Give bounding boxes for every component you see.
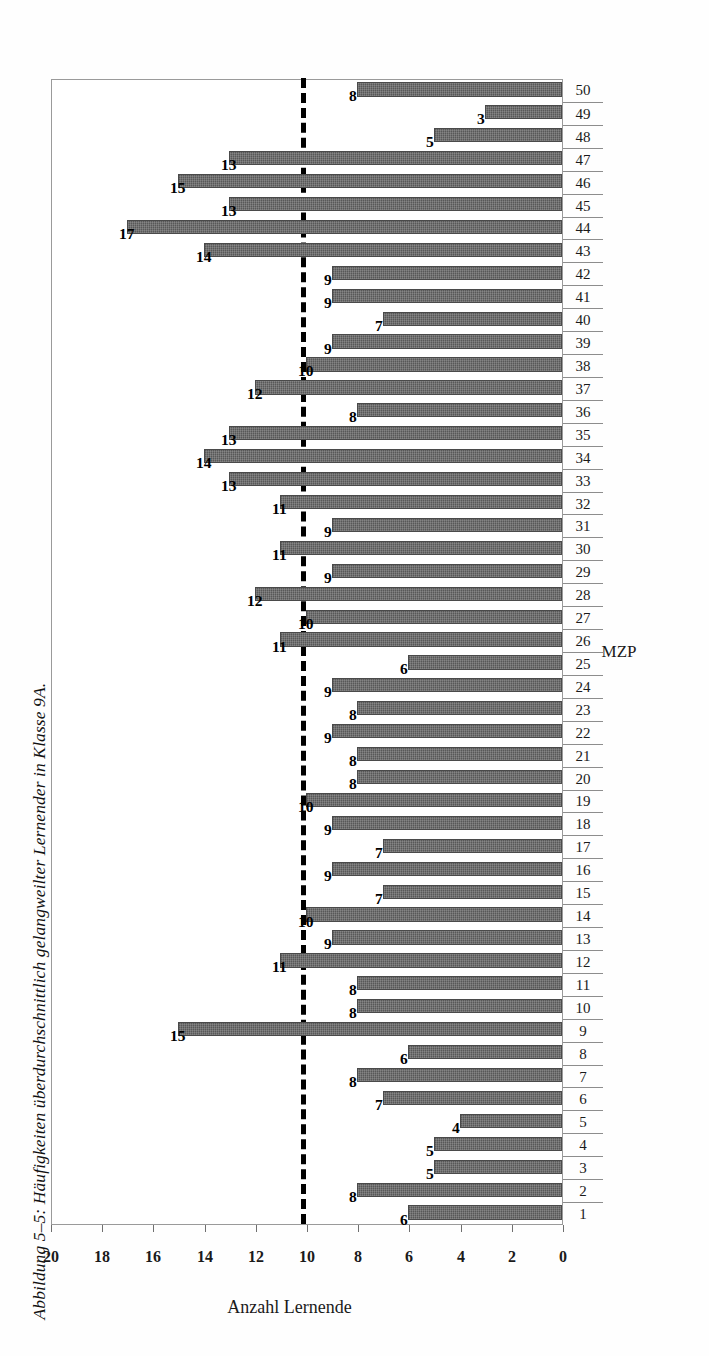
bar-value-label: 7 (374, 1096, 382, 1114)
bar (357, 1183, 562, 1197)
bar-value-label: 14 (195, 248, 211, 266)
x-axis-tick-label: 48 (575, 128, 590, 145)
y-axis-tick-label: 18 (88, 1248, 116, 1266)
bar-value-label: 7 (374, 844, 382, 862)
bar-value-label: 10 (298, 363, 314, 381)
y-axis-tick (358, 1225, 359, 1232)
x-axis-tick-cell: 32 (563, 492, 603, 515)
x-axis-tick-label: 38 (575, 358, 590, 375)
x-axis-tick-cell: 30 (563, 537, 603, 560)
bar-value-label: 7 (374, 317, 382, 335)
y-axis-tick-label: 6 (395, 1248, 423, 1266)
x-axis-tick-label: 7 (579, 1068, 587, 1085)
x-axis-tick-cell: 26 (563, 629, 603, 652)
bar-value-label: 8 (349, 981, 357, 999)
bar (229, 151, 562, 165)
bar-value-label: 10 (298, 615, 314, 633)
bar-value-label: 15 (170, 1027, 186, 1045)
x-axis-tick-cell: 33 (563, 469, 603, 492)
bar-value-label: 5 (426, 1142, 434, 1160)
y-axis-tick-label: 4 (446, 1248, 474, 1266)
y-axis-tick-label: 0 (549, 1248, 577, 1266)
y-axis-tick-label: 16 (139, 1248, 167, 1266)
bar (357, 976, 562, 990)
bar (126, 220, 561, 234)
bar (280, 495, 562, 509)
x-axis-tick-cell: 5 (563, 1110, 603, 1133)
bar (357, 403, 562, 417)
x-axis-tick-cell: 41 (563, 285, 603, 308)
bar (331, 678, 561, 692)
x-axis-tick-cell: 4 (563, 1133, 603, 1156)
x-axis-tick-label: 5 (579, 1114, 587, 1131)
x-axis-tick-cell: 27 (563, 606, 603, 629)
bar-value-label: 8 (349, 1004, 357, 1022)
bar-value-label: 11 (272, 500, 287, 518)
bar-value-label: 8 (349, 706, 357, 724)
x-axis-tick-label: 31 (575, 518, 590, 535)
plot-area: 6855478615881191079791088989611101291191… (51, 79, 563, 1225)
bar-value-label: 7 (374, 890, 382, 908)
bar-value-label: 12 (246, 592, 262, 610)
y-axis-tick (51, 1225, 52, 1232)
x-axis-tick-label: 11 (575, 976, 589, 993)
x-axis-tick-label: 12 (575, 953, 590, 970)
bar (280, 953, 562, 967)
x-axis-tick-cell: 15 (563, 881, 603, 904)
x-axis-tick-label: 6 (579, 1091, 587, 1108)
x-axis-tick-cell: 16 (563, 858, 603, 881)
bar (331, 518, 561, 532)
x-axis-tick-label: 16 (575, 862, 590, 879)
bar (203, 243, 561, 257)
bar (357, 747, 562, 761)
x-axis-tick-label: 33 (575, 472, 590, 489)
x-axis-tick-cell: 46 (563, 171, 603, 194)
x-axis-tick-cell: 44 (563, 217, 603, 240)
x-axis-tick-cell: 25 (563, 652, 603, 675)
x-axis-tick-label: 39 (575, 335, 590, 352)
bar-value-label: 17 (118, 225, 134, 243)
y-axis-tick (563, 1225, 564, 1232)
x-axis-tick-label: 30 (575, 541, 590, 558)
x-axis-tick-label: 47 (575, 151, 590, 168)
x-axis-tick-cell: 45 (563, 194, 603, 217)
bar-value-label: 8 (349, 752, 357, 770)
y-axis-tick (409, 1225, 410, 1232)
x-axis-tick-cell: 9 (563, 1019, 603, 1042)
x-axis-tick-label: 13 (575, 931, 590, 948)
x-axis-title: MZP (609, 79, 629, 1225)
x-axis-tick-label: 19 (575, 793, 590, 810)
bar (331, 930, 561, 944)
bar (434, 1137, 562, 1151)
x-axis-tick-label: 41 (575, 289, 590, 306)
bar-value-label: 11 (272, 638, 287, 656)
x-axis-tick-label: 20 (575, 770, 590, 787)
bar-value-label: 5 (426, 1165, 434, 1183)
y-axis-tick (153, 1225, 154, 1232)
y-axis-tick (511, 1225, 512, 1232)
bar (382, 312, 561, 326)
x-axis-tick-cell: 38 (563, 354, 603, 377)
bar (331, 564, 561, 578)
x-axis-tick-cell: 29 (563, 560, 603, 583)
x-axis-tick-label: 29 (575, 564, 590, 581)
bar (382, 839, 561, 853)
bar (382, 885, 561, 899)
bar-value-label: 8 (349, 1073, 357, 1091)
bar-value-label: 12 (246, 385, 262, 403)
bar (408, 655, 562, 669)
x-axis-tick-label: 46 (575, 174, 590, 191)
bar (459, 1114, 561, 1128)
x-axis-tick-cell: 21 (563, 744, 603, 767)
x-axis-tick-label: 50 (575, 82, 590, 99)
y-axis-title: Anzahl Lernende (33, 1297, 545, 1319)
x-axis-tick-cell: 34 (563, 446, 603, 469)
x-axis-tick-cell: 10 (563, 996, 603, 1019)
bar (280, 541, 562, 555)
x-axis-tick-label: 2 (579, 1183, 587, 1200)
bar (331, 334, 561, 348)
bar-value-label: 8 (349, 1188, 357, 1206)
y-axis-title-text: Anzahl Lernende (226, 1298, 350, 1319)
bar-value-label: 13 (221, 156, 237, 174)
bar (306, 793, 562, 807)
